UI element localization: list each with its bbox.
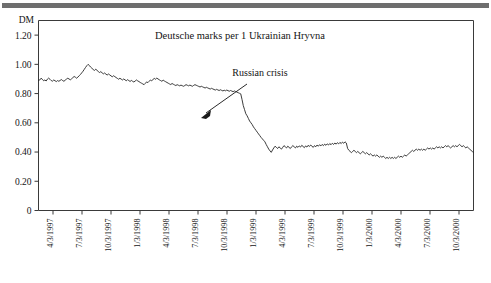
x-tick-label: 4/3/1998: [162, 219, 171, 248]
plot-axes: [35, 21, 474, 215]
x-tick-label: 7/3/2000: [423, 219, 432, 248]
x-tick-label: 7/3/1998: [191, 219, 200, 248]
x-tick-label: 10/3/1997: [104, 219, 113, 252]
y-tick-label: 0.40: [15, 147, 32, 157]
y-axis-unit-label: DM: [19, 15, 35, 25]
annotation-label: Russian crisis: [232, 67, 287, 78]
y-tick-label: 0.80: [15, 89, 32, 99]
axis-lines: [39, 21, 474, 211]
x-tick-label: 1/3/2000: [365, 219, 374, 248]
series-line-dm-per-uah: [39, 64, 474, 158]
exchange-rate-line-chart: 1.201.000.800.600.400.200 4/3/19977/3/19…: [0, 0, 491, 283]
x-tick-label: 4/3/2000: [394, 219, 403, 248]
y-tick-label: 0.60: [15, 118, 32, 128]
y-tick-marks: [35, 35, 39, 210]
x-tick-label: 7/3/1997: [75, 219, 84, 248]
y-tick-label: 1.00: [15, 60, 32, 70]
chart-figure: 1.201.000.800.600.400.200 4/3/19977/3/19…: [0, 0, 491, 283]
y-tick-label: 0: [27, 206, 32, 216]
x-tick-label: 1/3/1998: [133, 219, 142, 248]
x-tick-label: 10/3/1999: [336, 219, 345, 252]
x-tick-label: 10/3/1998: [220, 219, 229, 252]
y-tick-labels: 1.201.000.800.600.400.200: [15, 31, 32, 216]
x-tick-label: 4/3/1997: [46, 219, 55, 248]
chart-title: Deutsche marks per 1 Ukrainian Hryvna: [155, 30, 325, 41]
y-tick-label: 1.20: [15, 31, 32, 41]
x-tick-label: 1/3/1999: [249, 219, 258, 248]
x-tick-label: 10/3/2000: [452, 219, 461, 252]
x-tick-label: 7/3/1999: [307, 219, 316, 248]
x-tick-label: 4/3/1999: [278, 219, 287, 248]
x-tick-marks: [53, 211, 459, 215]
y-tick-label: 0.20: [15, 177, 32, 187]
annotation-arrowhead: [201, 110, 211, 119]
x-tick-labels: 4/3/19977/3/199710/3/19971/3/19984/3/199…: [46, 219, 461, 252]
russian-crisis-annotation: Russian crisis: [201, 67, 288, 119]
